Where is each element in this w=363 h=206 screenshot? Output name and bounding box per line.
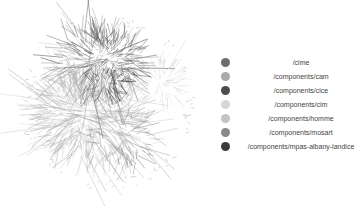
legend-swatch-icon xyxy=(221,58,230,67)
legend-label: /components/cice xyxy=(239,84,363,98)
legend-item-cice: /components/cice xyxy=(215,84,363,98)
legend-item-cim: /components/cim xyxy=(215,98,363,112)
legend-label: /components/cam xyxy=(239,70,363,84)
legend-swatch-icon xyxy=(221,114,230,123)
legend-label: /components/mosart xyxy=(239,126,363,140)
legend-swatch-icon xyxy=(221,142,230,151)
legend-swatch-icon xyxy=(221,128,230,137)
legend-item-homme: /components/homme xyxy=(215,112,363,126)
legend-label: /components/homme xyxy=(239,112,363,126)
legend-item-cime: /cime xyxy=(215,56,363,70)
legend-swatch-icon xyxy=(221,100,230,109)
legend-swatch-icon xyxy=(221,72,230,81)
legend-label: /cime xyxy=(239,56,363,70)
network-graph xyxy=(0,0,215,206)
legend-swatch-icon xyxy=(221,86,230,95)
legend-item-mosart: /components/mosart xyxy=(215,126,363,140)
legend-label: /components/cim xyxy=(239,98,363,112)
legend-item-mpas-albany-landice: /components/mpas-albany-landice xyxy=(215,140,363,154)
legend-item-cam: /components/cam xyxy=(215,70,363,84)
graph-edges xyxy=(0,0,192,206)
legend: /cime /components/cam /components/cice /… xyxy=(215,56,363,154)
legend-label: /components/mpas-albany-landice xyxy=(239,140,363,154)
